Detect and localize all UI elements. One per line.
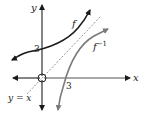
f-label: f: [71, 18, 78, 29]
x-intercept-label: 3: [66, 81, 72, 91]
x-axis-label: x: [133, 72, 139, 83]
y-equals-x-label: y = x: [7, 93, 31, 103]
f-inverse-superscript: −1: [97, 40, 107, 48]
curve-f-inverse-upper: [64, 29, 108, 84]
curve-f-inverse-lower: [58, 84, 64, 110]
y-intercept-label: 3: [34, 44, 40, 54]
y-axis-label: y: [30, 2, 37, 13]
curve-f: [12, 52, 28, 60]
inverse-function-diagram: y x 3 3 f f−1 y = x: [0, 0, 144, 116]
f-inverse-label: f−1: [92, 40, 107, 52]
